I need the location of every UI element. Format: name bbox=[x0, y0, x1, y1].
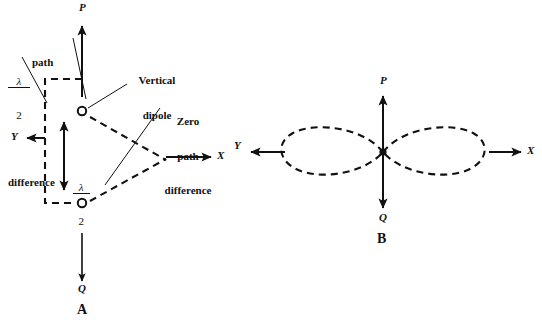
dipole-circle-upper bbox=[78, 107, 86, 115]
fraction-denominator-two: 2 bbox=[8, 110, 30, 121]
spacing-numerator-lambda: λ bbox=[73, 182, 90, 194]
leader-line-path-difference-right bbox=[73, 38, 86, 99]
axis-label-p-a: P bbox=[79, 2, 86, 14]
axis-label-q-b: Q bbox=[379, 212, 387, 224]
annotation-difference-word: difference bbox=[8, 177, 55, 189]
panel-label-a: A bbox=[77, 303, 87, 318]
annotation-zero-path-difference: Zero path difference bbox=[157, 93, 219, 220]
annotation-zero-line-1: Zero bbox=[157, 116, 219, 128]
annotation-zero-line-3: difference bbox=[157, 185, 219, 197]
radiation-lobe-left bbox=[281, 127, 383, 174]
axis-label-q-a: Q bbox=[78, 283, 86, 295]
annotation-half-lambda-path-difference: λ 2 path difference bbox=[8, 20, 55, 222]
dipole-center-marker bbox=[379, 148, 386, 155]
annotation-vertical-dipole-line-1: Vertical bbox=[127, 75, 187, 87]
fraction-numerator-lambda: λ bbox=[8, 76, 30, 88]
annotation-path-word: path bbox=[32, 54, 53, 69]
panel-label-b: B bbox=[377, 232, 386, 247]
radiation-lobe-right bbox=[383, 127, 485, 174]
axis-label-x-b: X bbox=[527, 145, 534, 157]
axis-label-y-b: Y bbox=[234, 140, 241, 152]
antenna-radiation-figure: P Q X Y λ 2 path difference Vertical dip… bbox=[0, 0, 542, 331]
annotation-zero-line-2: path bbox=[157, 151, 219, 163]
axis-label-p-b: P bbox=[380, 75, 387, 87]
dashed-ray-lower-to-x bbox=[90, 159, 166, 201]
fraction-half-lambda-path: λ 2 bbox=[8, 54, 30, 143]
fraction-half-lambda-spacing: λ 2 bbox=[73, 160, 90, 249]
annotation-spacing-half-lambda: λ 2 bbox=[57, 143, 90, 266]
leader-line-vertical-dipole bbox=[88, 84, 127, 108]
spacing-denominator-two: 2 bbox=[73, 216, 90, 227]
diagram-b-group bbox=[251, 96, 521, 208]
